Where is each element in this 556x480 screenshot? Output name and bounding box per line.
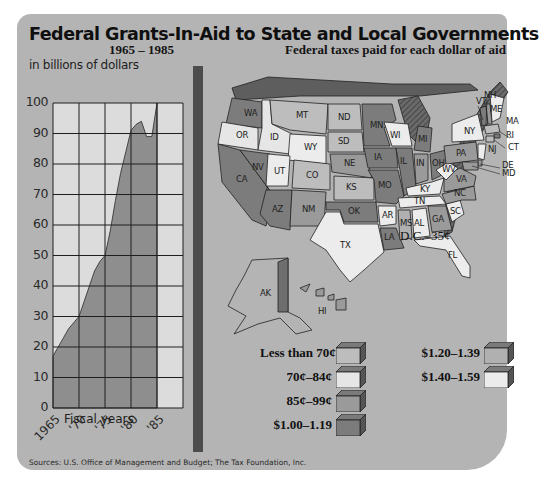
state-label-nh: NH <box>484 90 496 100</box>
state-label-md: MD <box>502 168 516 178</box>
state-label-or: OR <box>236 130 248 140</box>
legend-item: $1.00–1.19 <box>260 414 366 436</box>
state-label-mo: MO <box>378 180 392 190</box>
state-label-ne: NE <box>344 158 355 168</box>
state-label-nc: NC <box>454 188 466 198</box>
state-label-ar: AR <box>382 210 394 220</box>
state-label-ny: NY <box>464 126 476 136</box>
state-label-wy: WY <box>304 142 318 152</box>
state-label-id: ID <box>270 132 279 142</box>
state-label-mt: MT <box>296 110 309 120</box>
state-label-in: IN <box>416 158 424 168</box>
state-label-ut: UT <box>274 166 286 176</box>
state-label-mn: MN <box>370 120 383 130</box>
legend-label: $1.40–1.59 <box>404 369 480 385</box>
state-label-ky: KY <box>420 184 431 194</box>
state-HI-2[interactable] <box>316 288 324 296</box>
state-label-la: LA <box>384 232 395 242</box>
state-label-fl: FL <box>448 250 458 260</box>
state-DE[interactable] <box>478 160 482 166</box>
state-label-tn: TN <box>413 196 425 206</box>
state-MA[interactable] <box>484 124 500 134</box>
state-RI[interactable] <box>494 134 500 138</box>
legend-label: Less than 70¢ <box>260 345 332 361</box>
legend-label: $1.20–1.39 <box>404 345 480 361</box>
state-label-ga: GA <box>432 214 444 224</box>
state-HI-3[interactable] <box>328 294 334 300</box>
legend-swatch-icon <box>336 342 366 364</box>
dc-note: D.C.–35¢ <box>400 228 451 244</box>
state-label-pa: PA <box>456 148 466 158</box>
state-label-va: VA <box>456 174 467 184</box>
legend-label: $1.00–1.19 <box>260 417 332 433</box>
state-label-al: AL <box>414 218 425 228</box>
legend-swatch-icon <box>336 414 366 436</box>
state-label-ma: MA <box>506 116 519 126</box>
legend-item: $1.20–1.39 <box>404 342 514 364</box>
legend-item: $1.40–1.59 <box>404 366 514 388</box>
state-label-az: AZ <box>272 204 284 214</box>
state-label-ks: KS <box>346 182 356 192</box>
state-label-tx: TX <box>339 240 351 250</box>
state-label-sc: SC <box>450 206 461 216</box>
state-label-ct: CT <box>508 142 520 152</box>
state-label-wi: WI <box>390 130 400 140</box>
state-label-ia: IA <box>374 152 382 162</box>
legend-label: 70¢–84¢ <box>260 369 332 385</box>
state-label-wa: WA <box>244 108 258 118</box>
legend-item: 70¢–84¢ <box>260 366 366 388</box>
legend-item: 85¢–99¢ <box>260 390 366 412</box>
state-label-ak: AK <box>260 288 272 298</box>
state-HI-1[interactable] <box>300 284 310 292</box>
state-MD[interactable] <box>462 162 478 170</box>
legend-swatch-icon <box>336 390 366 412</box>
legend-label: 85¢–99¢ <box>260 393 332 409</box>
state-label-me: ME <box>490 104 502 114</box>
north-border-edge <box>232 77 478 100</box>
state-label-il: IL <box>400 156 407 166</box>
state-AK-edge <box>278 258 288 312</box>
state-label-ok: OK <box>348 206 360 216</box>
legend-swatch-icon <box>484 366 514 388</box>
legend-swatch-icon <box>336 366 366 388</box>
state-label-sd: SD <box>338 136 350 146</box>
state-label-nj: NJ <box>488 144 496 154</box>
legend-swatch-icon <box>484 342 514 364</box>
state-label-ms: MS <box>400 218 412 228</box>
state-NJ[interactable] <box>478 144 486 160</box>
legend-item: Less than 70¢ <box>260 342 366 364</box>
state-label-co: CO <box>306 170 319 180</box>
state-label-nd: ND <box>338 112 351 122</box>
state-label-wv: WV <box>442 164 456 174</box>
state-label-nv: NV <box>252 162 264 172</box>
state-HI-4[interactable] <box>336 298 346 310</box>
state-label-mi: MI <box>418 134 427 144</box>
state-label-nm: NM <box>302 204 315 214</box>
state-label-hi: HI <box>318 306 326 316</box>
state-label-ri: RI <box>506 130 514 140</box>
state-CT[interactable] <box>486 136 494 142</box>
state-label-ca: CA <box>236 174 248 184</box>
